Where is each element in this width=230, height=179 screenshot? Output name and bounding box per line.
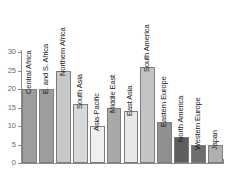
y-axis-tick-label-wrap: 25 — [0, 71, 22, 72]
bar-category-label: East Asia — [126, 86, 134, 116]
bar-category-label: South Asia — [76, 74, 84, 109]
y-axis-tick-label-wrap: 5 — [0, 145, 22, 146]
bar-category-label: South America — [143, 24, 151, 71]
bar — [90, 126, 105, 163]
bar-category-label: Eastern Europe — [160, 77, 168, 128]
bar-category-label: Northern Africa — [59, 27, 67, 76]
y-axis-tick-label: 25 — [8, 67, 16, 75]
bar — [157, 122, 172, 163]
bar-category-label: Asia-Pacific — [93, 93, 101, 131]
bar-category-label: E. and S. Africa — [42, 44, 50, 94]
y-axis-tick-label: 0 — [12, 159, 16, 167]
y-axis-tick-label: 15 — [8, 104, 16, 112]
y-axis-tick-label-wrap: 15 — [0, 108, 22, 109]
bar — [56, 71, 71, 164]
y-axis-tick-label: 10 — [8, 122, 16, 130]
y-axis-tick-label: 30 — [8, 48, 16, 56]
y-axis-tick-label: 20 — [8, 85, 16, 93]
bar-chart: 051015202530Central AfricaE. and S. Afri… — [0, 0, 230, 179]
bar-category-label: Middle East — [109, 74, 117, 112]
bar — [140, 67, 155, 163]
bar — [107, 108, 122, 164]
bar — [39, 89, 54, 163]
bar — [73, 104, 88, 163]
y-axis-tick-label: 5 — [12, 141, 16, 149]
bar-category-label: Japan — [211, 130, 219, 150]
bar-category-label: North America — [177, 96, 185, 142]
y-axis-tick-label-wrap: 20 — [0, 89, 22, 90]
bar-category-label: Western Europe — [194, 97, 202, 150]
y-axis-tick-label-wrap: 10 — [0, 126, 22, 127]
y-axis-tick-label-wrap: 0 — [0, 163, 22, 164]
bar — [124, 111, 139, 163]
y-axis-tick-label-wrap: 30 — [0, 52, 22, 53]
bar-category-label: Central Africa — [25, 50, 33, 94]
bar — [22, 89, 37, 163]
x-axis-line — [21, 163, 224, 164]
